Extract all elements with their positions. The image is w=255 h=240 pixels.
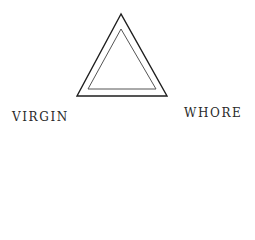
label-whore: WHORE [184,107,242,119]
label-virgin: VIRGIN [12,111,69,123]
